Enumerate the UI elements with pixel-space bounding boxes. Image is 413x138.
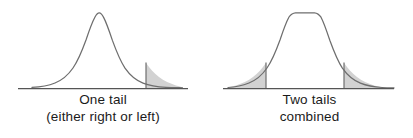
- hypothesis-test-tails-figure: One tail (either right or left) Two tail…: [0, 0, 413, 138]
- two-tails-caption: Two tails combined: [206, 92, 413, 125]
- one-tail-plot: [0, 0, 206, 92]
- two-tails-plot: [206, 0, 413, 92]
- two-tails-normal-curve: [228, 13, 394, 88]
- one-tail-right-shade: [146, 63, 183, 88]
- one-tail-normal-curve: [32, 13, 183, 88]
- two-tails-caption-line2: combined: [206, 109, 413, 126]
- one-tail-caption-line1: One tail: [0, 92, 206, 109]
- one-tail-caption-line2: (either right or left): [0, 109, 206, 126]
- one-tail-caption: One tail (either right or left): [0, 92, 206, 125]
- two-tails-caption-line1: Two tails: [206, 92, 413, 109]
- panel-two-tails: Two tails combined: [206, 0, 413, 138]
- panel-one-tail: One tail (either right or left): [0, 0, 206, 138]
